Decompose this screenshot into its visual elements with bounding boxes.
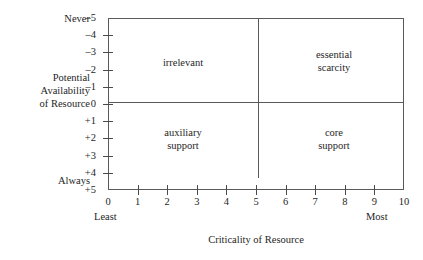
y-axis-tick-mark (103, 35, 113, 36)
x-axis-tick-mark (197, 185, 198, 195)
y-axis-title: Potential Availability of Resource (4, 71, 90, 110)
x-axis-tick-label: 4 (211, 196, 241, 208)
x-axis-tick-mark (226, 185, 227, 195)
plot-frame (108, 18, 404, 190)
x-axis-endpoint-label-low: Least (94, 211, 144, 223)
y-axis-tick-mark (103, 52, 113, 53)
y-axis-tick-mark (103, 156, 113, 157)
x-axis-tick-mark (374, 185, 375, 195)
x-axis-tick-mark (315, 185, 316, 195)
y-axis-tick-label: +3 (56, 150, 96, 161)
x-axis-tick-label: 6 (271, 196, 301, 208)
x-axis-tick-mark (345, 185, 346, 195)
y-axis-tick-label: +2 (56, 132, 96, 143)
y-axis-tick-mark (103, 173, 113, 174)
y-axis-tick-label: –4 (56, 29, 96, 40)
divider-vertical-at-five (258, 18, 259, 178)
quadrant-label-irrelevant: irrelevant (128, 56, 238, 69)
x-axis-tick-label: 5 (241, 196, 271, 208)
y-axis-tick-mark (103, 104, 113, 105)
x-axis-tick-label: 10 (389, 196, 419, 208)
x-axis-tick-label: 0 (93, 196, 123, 208)
divider-horizontal-at-zero (108, 102, 404, 103)
y-axis-tick-mark (103, 87, 113, 88)
quadrant-label-essential-scarcity: essential scarcity (278, 48, 390, 74)
y-axis-endpoint-label-top: Never (18, 13, 90, 25)
x-axis-title: Criticality of Resource (108, 234, 404, 246)
x-axis-tick-label: 1 (123, 196, 153, 208)
quadrant-label-auxiliary-support: auxiliary support (128, 126, 238, 152)
y-axis-tick-mark (103, 138, 113, 139)
y-axis-tick-label: –3 (56, 46, 96, 57)
y-axis-endpoint-label-bottom: Always (18, 175, 90, 187)
quadrant-label-core-support: core support (278, 126, 390, 152)
x-axis-tick-label: 9 (359, 196, 389, 208)
x-axis-tick-mark (256, 185, 257, 195)
x-axis-tick-mark (286, 185, 287, 195)
x-axis-tick-label: 2 (152, 196, 182, 208)
x-axis-tick-label: 7 (300, 196, 330, 208)
x-axis-tick-mark (138, 185, 139, 195)
x-axis-tick-mark (167, 185, 168, 195)
x-axis-tick-label: 8 (330, 196, 360, 208)
x-axis-endpoint-label-high: Most (366, 211, 416, 223)
y-axis-tick-mark (103, 70, 113, 71)
chart-figure: irrelevant essential scarcity auxiliary … (0, 0, 423, 260)
x-axis-tick-label: 3 (182, 196, 212, 208)
y-axis-tick-label: +1 (56, 115, 96, 126)
y-axis-tick-mark (103, 121, 113, 122)
